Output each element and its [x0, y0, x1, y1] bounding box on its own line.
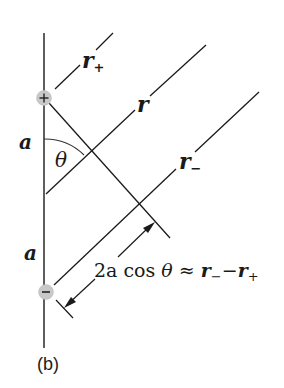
label-r-plus: r+ — [82, 47, 105, 73]
label-r: r — [137, 91, 149, 117]
label-theta: θ — [55, 148, 67, 172]
label-r-minus: r− — [179, 148, 202, 174]
r-minus-line-upper — [195, 92, 259, 152]
r-line-upper — [150, 45, 206, 96]
label-a-top: a — [19, 130, 32, 154]
r-plus-line-lower — [55, 65, 80, 89]
perpendicular-line — [49, 103, 170, 238]
label-a-bottom: a — [24, 241, 37, 265]
dipole-diagram: r+ r r− a a θ 2a cos θ ≈ r−−r+ (b) — [0, 0, 284, 388]
figure-caption: (b) — [37, 354, 59, 375]
formula-path-difference: 2a cos θ ≈ r−−r+ — [94, 259, 259, 281]
diagram-lines — [0, 0, 284, 388]
